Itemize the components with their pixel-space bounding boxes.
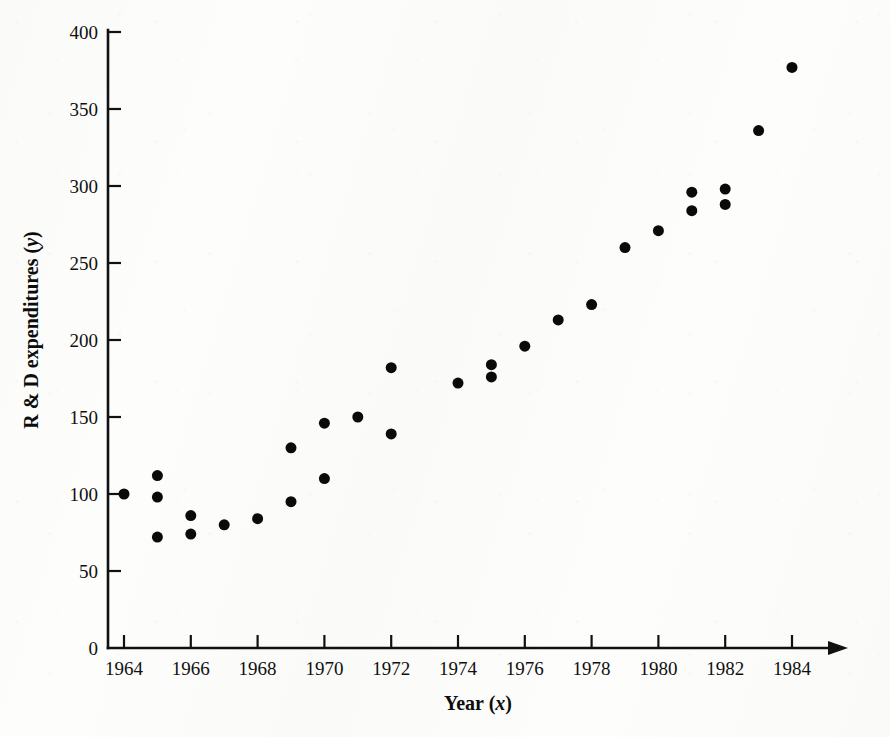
y-axis-tick-label: 250 xyxy=(70,253,99,274)
data-point: 1975, 176 xyxy=(486,371,497,382)
data-point: 1981, 296 xyxy=(686,187,697,198)
data-point: 1974, 172 xyxy=(453,378,464,389)
y-axis-title: R & D expenditures (y) xyxy=(20,231,43,428)
data-point: 1975, 184 xyxy=(486,359,497,370)
y-axis-tick-label: 150 xyxy=(70,407,99,428)
data-point: 1984, 377 xyxy=(787,62,798,73)
data-point: 1976, 196 xyxy=(519,341,530,352)
data-point: 1983, 336 xyxy=(753,125,764,136)
data-point: 1969, 95 xyxy=(286,496,297,507)
data-point: 1969, 130 xyxy=(286,442,297,453)
y-axis-tick-label: 350 xyxy=(70,99,99,120)
data-point: 1968, 84 xyxy=(252,513,263,524)
y-axis-tick-label: 0 xyxy=(89,638,99,659)
data-point: 1970, 110 xyxy=(319,473,330,484)
x-axis-tick-label: 1982 xyxy=(706,658,744,679)
y-axis-tick-label: 400 xyxy=(70,22,99,43)
x-axis-tick-label: 1972 xyxy=(372,658,410,679)
y-axis-tick-label: 200 xyxy=(70,330,99,351)
data-point: 1972, 182 xyxy=(386,362,397,373)
y-axis-tick-label: 50 xyxy=(79,561,98,582)
x-axis-tick-label: 1976 xyxy=(506,658,544,679)
data-point: 1981, 284 xyxy=(686,205,697,216)
x-axis-arrow-icon xyxy=(828,641,848,655)
x-axis-tick-label: 1984 xyxy=(773,658,812,679)
x-axis-tick-label: 1974 xyxy=(439,658,478,679)
data-point: 1966, 86 xyxy=(185,510,196,521)
x-axis-tick-label: 1978 xyxy=(573,658,611,679)
data-point: 1979, 260 xyxy=(620,242,631,253)
figure-root: 0501001502002503003504001964196619681970… xyxy=(0,0,890,737)
data-point: 1964, 100 xyxy=(119,489,130,500)
data-point: 1980, 271 xyxy=(653,225,664,236)
data-point: 1965, 112 xyxy=(152,470,163,481)
data-point: 1972, 139 xyxy=(386,428,397,439)
data-point: 1978, 223 xyxy=(586,299,597,310)
x-axis-tick-label: 1970 xyxy=(305,658,343,679)
x-axis-tick-label: 1964 xyxy=(105,658,144,679)
scatter-plot: 0501001502002503003504001964196619681970… xyxy=(0,0,890,737)
x-axis-tick-label: 1966 xyxy=(172,658,210,679)
data-point: 1982, 288 xyxy=(720,199,731,210)
data-point: 1965, 72 xyxy=(152,532,163,543)
data-point: 1966, 74 xyxy=(185,529,196,540)
data-point: 1967, 80 xyxy=(219,519,230,530)
data-point: 1970, 146 xyxy=(319,418,330,429)
y-axis-tick-label: 100 xyxy=(70,484,99,505)
data-point: 1977, 213 xyxy=(553,314,564,325)
x-axis-tick-label: 1968 xyxy=(239,658,277,679)
x-axis-title: Year (x) xyxy=(444,692,512,715)
x-axis-tick-label: 1980 xyxy=(639,658,677,679)
y-axis-tick-label: 300 xyxy=(70,176,99,197)
data-point: 1971, 150 xyxy=(352,412,363,423)
data-point: 1982, 298 xyxy=(720,184,731,195)
data-point: 1965, 98 xyxy=(152,492,163,503)
